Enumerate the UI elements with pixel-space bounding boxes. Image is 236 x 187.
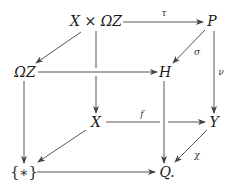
node-star: {∗} xyxy=(10,165,37,179)
node-x-times-omegaz: X × ΩZ xyxy=(70,14,122,28)
arrow-chi xyxy=(175,130,207,162)
arrow-xomegaz-to-omegaz xyxy=(36,32,81,63)
label-tau: τ xyxy=(162,9,167,18)
node-p: P xyxy=(207,14,216,28)
node-x: X xyxy=(91,115,101,129)
node-h: H xyxy=(159,65,171,79)
node-q: Q. xyxy=(159,165,174,179)
label-sigma: σ xyxy=(194,48,200,57)
arrow-sigma xyxy=(173,30,205,63)
arrow-x-to-star xyxy=(38,130,86,162)
node-y: Y xyxy=(209,115,218,129)
label-nu: ν xyxy=(218,68,223,77)
commutative-diagram: X × ΩZ P ΩZ H X Y {∗} Q. τ σ ν f χ xyxy=(0,0,236,187)
label-f: f xyxy=(140,110,143,119)
label-chi: χ xyxy=(194,151,199,160)
node-omegaz: ΩZ xyxy=(14,65,35,79)
